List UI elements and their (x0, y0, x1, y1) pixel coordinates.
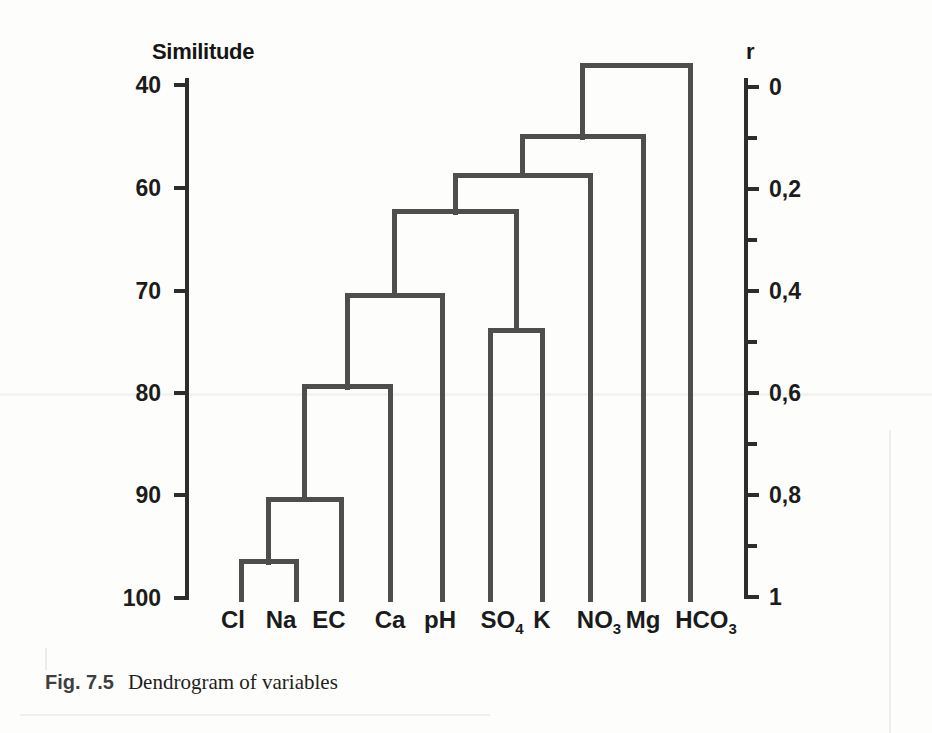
right-axis-minor-tick (748, 442, 757, 446)
right-axis-tick-0 (748, 85, 759, 89)
figure-caption: Fig. 7.5Dendrogram of variables (45, 670, 338, 694)
right-axis-minor-tick (748, 544, 757, 548)
leaf-label-text: K (533, 606, 550, 633)
dendro-bar-M9 (580, 63, 692, 68)
dendro-stem-HCO3 (688, 63, 693, 602)
leaf-label-HCO3: HCO3 (675, 608, 737, 636)
dendro-stem-Mg (641, 134, 646, 602)
leaf-label-text: NO (577, 606, 613, 633)
figure-caption-text: Dendrogram of variables (128, 670, 338, 694)
dendro-stem-SO4 (488, 328, 493, 602)
right-axis-tick-0,2 (748, 187, 759, 191)
right-axis-tick-0,6 (748, 391, 759, 395)
right-axis-title: r (746, 41, 754, 63)
dendro-stem-M6 (453, 173, 458, 215)
leaf-label-text: HCO (675, 606, 728, 633)
leaf-label-text: Cl (221, 606, 245, 633)
right-axis-label-0,6: 0,6 (769, 382, 801, 405)
leaf-label-text: Mg (626, 606, 661, 633)
dendro-stem-K (540, 328, 545, 602)
right-axis-label-0,2: 0,2 (769, 178, 801, 201)
dendro-stem-pH (440, 293, 445, 602)
left-axis-tick-80 (174, 391, 185, 395)
leaf-label-pH: pH (424, 608, 456, 632)
right-axis-label-0,4: 0,4 (769, 280, 801, 303)
leaf-label-SO4: SO4 (480, 608, 523, 636)
right-axis-line (744, 78, 748, 599)
left-axis-tick-70 (174, 289, 185, 293)
leaf-label-Mg: Mg (626, 608, 661, 632)
right-axis-minor-tick (748, 238, 757, 242)
leaf-label-EC: EC (312, 608, 345, 632)
dendro-stem-Na (294, 559, 299, 602)
left-axis-tick-40 (174, 83, 185, 87)
dendro-stem-M5 (514, 209, 519, 333)
leaf-label-text: Na (266, 606, 297, 633)
dendrogram-canvas: Similitude r 406070809010000,20,40,60,81… (0, 0, 932, 733)
right-axis-tick-0,8 (748, 493, 759, 497)
leaf-label-text: EC (312, 606, 345, 633)
right-axis-tick-0,4 (748, 289, 759, 293)
dendro-stem-M8 (580, 63, 585, 140)
left-axis-label-40: 40 (91, 74, 161, 97)
left-axis-tick-100 (174, 596, 185, 600)
left-axis-title: Similitude (152, 41, 254, 63)
right-axis-label-1: 1 (769, 586, 782, 609)
leaf-label-Na: Na (266, 608, 297, 632)
dendro-stem-EC (339, 497, 344, 602)
dendro-stem-M3 (345, 293, 350, 390)
dendro-stem-Cl (239, 559, 244, 602)
right-axis-label-0,8: 0,8 (769, 484, 801, 507)
left-axis-label-60: 60 (91, 177, 161, 200)
left-axis-line (185, 78, 189, 600)
right-axis-minor-tick (748, 340, 757, 344)
leaf-label-subscript: 3 (729, 620, 737, 637)
left-axis-label-70: 70 (91, 280, 161, 303)
dendro-stem-Ca (388, 384, 393, 602)
right-axis-label-0: 0 (769, 76, 782, 99)
leaf-label-text: pH (424, 606, 456, 633)
dendro-stem-NO3 (588, 173, 593, 602)
dendro-stem-M7 (520, 134, 525, 177)
leaf-label-Cl: Cl (221, 608, 245, 632)
dendro-stem-M1 (266, 497, 271, 565)
leaf-label-Ca: Ca (375, 608, 406, 632)
left-axis-label-80: 80 (91, 382, 161, 405)
leaf-label-text: Ca (375, 606, 406, 633)
left-axis-label-90: 90 (91, 484, 161, 507)
dendro-stem-M4 (392, 209, 397, 297)
scanned-figure-page: Similitude r 406070809010000,20,40,60,81… (0, 0, 932, 733)
left-axis-label-100: 100 (91, 587, 161, 610)
left-axis-tick-90 (174, 493, 185, 497)
leaf-label-text: SO (480, 606, 515, 633)
leaf-label-subscript: 4 (515, 620, 523, 637)
figure-caption-label: Fig. 7.5 (45, 671, 114, 693)
dendro-stem-M2 (302, 384, 307, 501)
right-axis-minor-tick (748, 136, 757, 140)
leaf-label-subscript: 3 (613, 620, 621, 637)
leaf-label-K: K (533, 608, 550, 632)
leaf-label-NO3: NO3 (577, 608, 621, 636)
left-axis-tick-60 (174, 186, 185, 190)
right-axis-tick-1 (748, 595, 759, 599)
